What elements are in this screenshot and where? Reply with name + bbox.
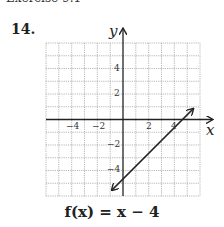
y-tick-4: 4 (114, 63, 120, 73)
x-tick-4: 4 (171, 121, 177, 131)
function-line (112, 109, 193, 190)
x-tick-2: 2 (146, 121, 152, 131)
y-axis-label: y (109, 22, 117, 40)
y-tick-neg4: −4 (107, 164, 120, 174)
x-tick-neg4: −4 (66, 121, 79, 131)
y-tick-neg2: −2 (107, 139, 120, 149)
x-tick-neg2: −2 (92, 121, 105, 131)
y-tick-2: 2 (114, 88, 120, 98)
function-caption: f(x) = x − 4 (0, 203, 224, 221)
x-axis-label: x (206, 121, 214, 139)
